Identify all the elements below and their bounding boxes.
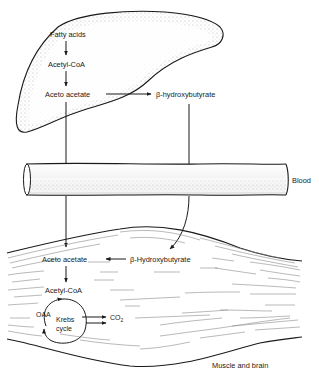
liver-organ	[16, 11, 223, 132]
vessel-far-end	[286, 164, 288, 195]
label-co2: CO2	[110, 314, 124, 323]
label-krebs-line2: cycle	[56, 325, 72, 333]
label-krebs-line1: Krebs	[56, 316, 75, 323]
label-hydroxybutyrate-liver: β-hydroxybutyrate	[156, 90, 215, 99]
vessel-open-end	[24, 164, 31, 195]
blood-vessel	[24, 163, 289, 195]
label-oaa: OAA	[36, 311, 51, 318]
vessel-bottom-edge	[26, 195, 286, 196]
label-acetoacetate-liver: Aceto acetate	[45, 90, 90, 99]
label-acetyl-coa-liver: Acetyl-CoA	[48, 60, 85, 69]
arrow-blood-hydroxybutyrate-to-muscle	[170, 196, 189, 249]
label-fatty-acids: Fatty acids	[50, 30, 86, 39]
label-acetoacetate-muscle: Aceto acetate	[42, 255, 87, 264]
label-blood: Blood	[292, 176, 311, 185]
label-muscle-and-brain: Muscle and brain	[212, 361, 268, 370]
label-hydroxybutyrate-muscle: β-Hydroxybutyrate	[130, 255, 191, 264]
ketone-metabolism-diagram: Fatty acids Acetyl-CoA Aceto acetate β-h…	[0, 0, 319, 375]
label-acetyl-coa-muscle: Acetyl-CoA	[45, 286, 82, 295]
muscle-tissue	[7, 227, 302, 367]
